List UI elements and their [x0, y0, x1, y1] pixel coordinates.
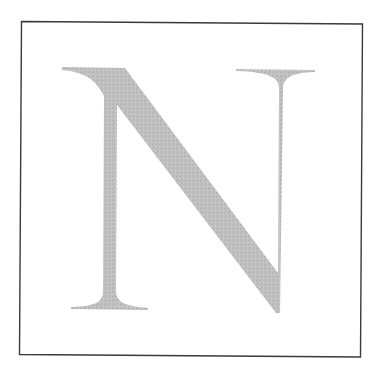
letter-n-shape [62, 67, 315, 313]
framed-letter-graphic [0, 0, 381, 373]
